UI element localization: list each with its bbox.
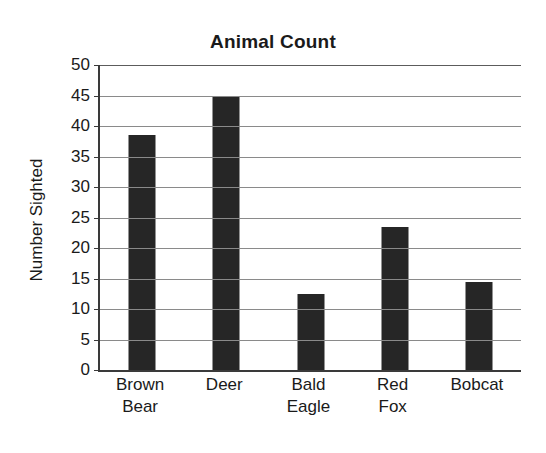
y-tick-mark-40 — [94, 126, 100, 127]
y-tick-label-5: 5 — [50, 330, 90, 350]
y-tick-mark-50 — [94, 65, 100, 66]
gridline-20 — [100, 248, 521, 249]
x-axis-label-bobcat: Bobcat — [422, 374, 532, 396]
x-axis-label-line-2: Fox — [338, 396, 448, 418]
bar-chart: Animal Count Number Sighted 504540353025… — [0, 0, 546, 453]
gridline-35 — [100, 157, 521, 158]
y-tick-label-0: 0 — [50, 360, 90, 380]
gridline-5 — [100, 340, 521, 341]
y-tick-label-40: 40 — [50, 116, 90, 136]
x-axis-labels: BrownBearDeerBaldEagleRedFoxBobcat — [98, 374, 519, 444]
y-tick-label-35: 35 — [50, 147, 90, 167]
gridline-40 — [100, 126, 521, 127]
chart-title: Animal Count — [0, 31, 546, 53]
y-tick-mark-15 — [94, 279, 100, 280]
y-tick-mark-45 — [94, 96, 100, 97]
bar-bald-eagle — [297, 294, 324, 370]
y-tick-label-25: 25 — [50, 208, 90, 228]
y-tick-mark-5 — [94, 340, 100, 341]
y-tick-label-30: 30 — [50, 177, 90, 197]
gridline-15 — [100, 279, 521, 280]
bar-bobcat — [465, 282, 492, 370]
gridline-10 — [100, 309, 521, 310]
y-tick-mark-30 — [94, 187, 100, 188]
y-tick-mark-10 — [94, 309, 100, 310]
x-axis-label-line-1: Brown — [116, 375, 164, 394]
y-axis-title: Number Sighted — [27, 120, 47, 320]
x-axis-label-line-1: Bald — [291, 375, 325, 394]
gridline-50 — [100, 65, 521, 66]
gridline-30 — [100, 187, 521, 188]
bar-deer — [213, 96, 240, 371]
y-tick-label-20: 20 — [50, 238, 90, 258]
y-tick-mark-25 — [94, 218, 100, 219]
x-axis-label-line-1: Deer — [206, 375, 243, 394]
y-tick-mark-0 — [94, 370, 100, 371]
y-tick-label-45: 45 — [50, 86, 90, 106]
y-tick-label-15: 15 — [50, 269, 90, 289]
y-tick-label-10: 10 — [50, 299, 90, 319]
x-axis-label-line-2: Bear — [85, 396, 195, 418]
gridline-45 — [100, 96, 521, 97]
plot-area: 50454035302520151050 — [98, 65, 521, 372]
gridline-25 — [100, 218, 521, 219]
y-tick-label-50: 50 — [50, 55, 90, 75]
y-tick-mark-35 — [94, 157, 100, 158]
x-axis-label-line-1: Red — [377, 375, 408, 394]
bar-brown-bear — [129, 135, 156, 370]
y-tick-mark-20 — [94, 248, 100, 249]
x-axis-label-line-1: Bobcat — [450, 375, 503, 394]
